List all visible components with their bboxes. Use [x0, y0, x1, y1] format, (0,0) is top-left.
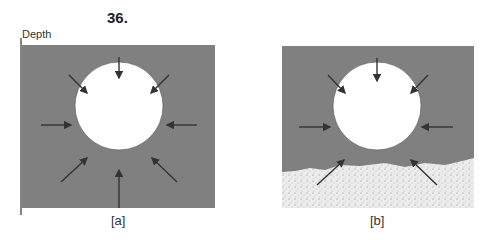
diagram	[0, 0, 496, 240]
panel-b	[282, 46, 474, 208]
caption-a: [a]	[111, 213, 125, 228]
caption-b: [b]	[370, 213, 384, 228]
panel-a	[21, 38, 215, 215]
